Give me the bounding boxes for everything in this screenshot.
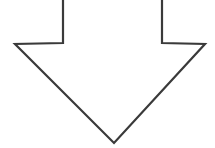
down-arrow-outline-path — [15, 0, 205, 143]
diagram-canvas — [0, 0, 215, 148]
down-arrow-icon — [0, 0, 215, 148]
